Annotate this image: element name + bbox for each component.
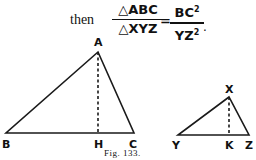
label-k: K [225,139,234,152]
triangle-abc [6,52,134,133]
label-b: B [2,138,10,151]
label-z: Z [245,139,253,152]
figure-caption: Fig. 133. [104,148,141,158]
label-a: A [94,36,103,49]
label-h: H [94,138,103,151]
triangle-diagram [0,0,256,160]
triangle-xyz [178,97,249,135]
label-y: Y [172,139,180,152]
label-x: X [225,83,233,96]
